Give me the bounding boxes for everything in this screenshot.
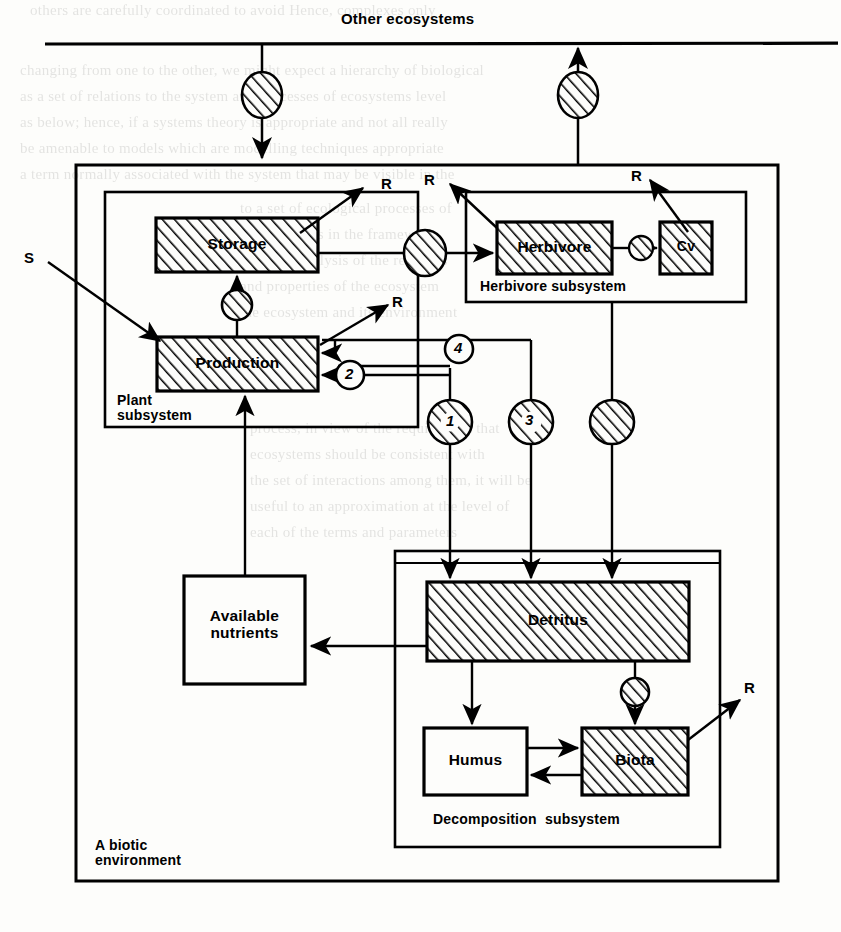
label-flow-3: 3 — [525, 412, 534, 428]
label-r-storage: R — [381, 176, 392, 192]
flow-r-storage — [300, 188, 363, 233]
flow-r-herbivore — [450, 184, 497, 228]
label-cv: Cv — [660, 239, 712, 254]
diagram-canvas — [0, 0, 841, 932]
label-available-nutrients: Available nutrients — [184, 608, 305, 641]
label-plant-subsystem: Plant subsystem — [117, 393, 192, 423]
label-r-cv: R — [631, 168, 642, 184]
valve-export — [558, 72, 598, 118]
label-biota: Biota — [582, 752, 688, 769]
label-r-production: R — [392, 294, 403, 310]
label-production: Production — [157, 355, 318, 372]
label-herbivore: Herbivore — [497, 239, 612, 256]
label-abiotic-environment: A bioticenvironment — [95, 838, 181, 868]
exchange-pipes — [262, 45, 578, 165]
valve-grazing — [404, 230, 446, 276]
ecosystem-flow-diagram: others are carefully coordinated to avoi… — [0, 0, 841, 932]
valve-herbivore-detritus — [590, 400, 634, 444]
label-storage: Storage — [156, 236, 318, 253]
valve-storage — [222, 290, 252, 320]
label-herbivore-subsystem: Herbivore subsystem — [480, 279, 626, 294]
valve-detritus-biota — [621, 678, 649, 706]
label-flow-1: 1 — [446, 413, 455, 429]
label-flow-4: 4 — [454, 340, 463, 356]
label-decomposition-subsystem: Decomposition subsystem — [433, 812, 620, 827]
top-boundary-line — [45, 43, 838, 44]
valve-herbivore-cv — [629, 236, 653, 260]
valve-import — [242, 72, 282, 118]
label-source-s: S — [24, 250, 34, 266]
page-title: Other ecosystems — [341, 11, 474, 27]
label-flow-2: 2 — [345, 366, 354, 382]
flow-r-biota — [688, 700, 740, 740]
label-r-biota: R — [744, 680, 755, 696]
label-humus: Humus — [424, 752, 527, 769]
label-r-herbivore: R — [424, 172, 435, 188]
label-detritus: Detritus — [427, 612, 689, 629]
